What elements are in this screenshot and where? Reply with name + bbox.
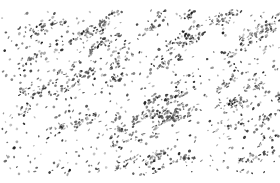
noise-texture-canvas: Grayscale noise texture of scattered dar… [0, 0, 280, 183]
speckle-field [0, 0, 280, 183]
